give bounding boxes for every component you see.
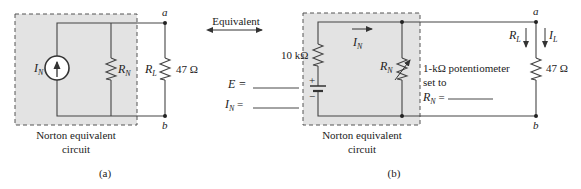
box-label-a-line1: Norton equivalent — [36, 129, 116, 141]
node-b-dot — [163, 114, 167, 118]
pot-desc-line2: set to — [423, 76, 447, 88]
node-a-label: a — [162, 6, 168, 18]
panel-a: IN RN RL 47 Ω a b Norton equivalent circ… — [15, 6, 198, 180]
in-label: IN = — [224, 97, 243, 113]
caption-a: (a) — [99, 167, 112, 180]
pot-set-label: RN = — [422, 90, 445, 106]
node-a-label-b: a — [533, 5, 539, 17]
resistor-rl-b-icon — [531, 58, 541, 80]
panel-b: 10 kΩ + − IN RN 1-kΩ potentiometer set t… — [224, 5, 568, 180]
battery-minus: − — [309, 90, 315, 102]
norton-diagram: IN RN RL 47 Ω a b Norton equivalent circ… — [0, 0, 581, 189]
equivalent-label: Equivalent — [212, 15, 260, 27]
rl-label-a: RL — [144, 62, 157, 78]
node-a-b-dot — [534, 20, 538, 24]
series-resistor-value: 10 kΩ — [281, 49, 308, 61]
equivalent-arrow: Equivalent — [206, 15, 262, 33]
node-b-label-b: b — [533, 119, 539, 131]
il-arrow-label: IL — [548, 28, 558, 44]
battery-plus: + — [309, 74, 315, 86]
box-label-a-line2: circuit — [62, 143, 90, 155]
node-b-label: b — [162, 119, 168, 131]
pot-desc-line1: 1-kΩ potentiometer — [423, 62, 510, 74]
rl-value-a: 47 Ω — [176, 63, 198, 75]
node-a-dot — [163, 21, 167, 25]
box-label-b-line1: Norton equivalent — [322, 129, 402, 141]
rl-value-b: 47 Ω — [546, 62, 568, 74]
caption-b: (b) — [388, 167, 401, 180]
rl-arrow-label: RL — [508, 28, 521, 44]
box-label-b-line2: circuit — [348, 143, 376, 155]
node-b-b-dot — [534, 114, 538, 118]
e-label: E = — [227, 77, 246, 91]
current-source-icon — [45, 56, 69, 80]
resistor-rl-icon — [160, 58, 170, 80]
